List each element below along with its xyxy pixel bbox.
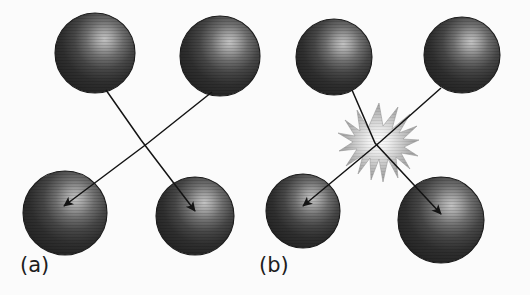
sphere-top-right xyxy=(180,16,260,96)
panel-b-label: (b) xyxy=(259,255,289,276)
sphere-top-right xyxy=(424,17,500,93)
sphere-top-left xyxy=(296,19,372,95)
panel-b xyxy=(266,17,500,263)
sphere-bottom-right xyxy=(398,177,484,263)
arrow-top-left-to-bottom-right xyxy=(106,90,195,211)
panel-a-label: (a) xyxy=(20,255,49,276)
sphere-bottom-right xyxy=(156,177,234,255)
sphere-top-left xyxy=(55,13,135,93)
panel-a-spheres xyxy=(23,13,260,255)
panel-a xyxy=(23,13,260,255)
collision-figure: (a) (b) xyxy=(0,0,530,295)
figure-canvas xyxy=(0,0,530,295)
